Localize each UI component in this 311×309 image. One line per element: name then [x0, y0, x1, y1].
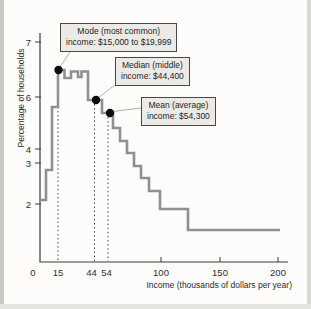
mode-callout-line1: Mode (most common) [66, 26, 171, 37]
x-tick-label-54: 54 [101, 267, 112, 278]
x-tick-label-150: 150 [212, 267, 228, 278]
mode-leader-line [60, 52, 70, 67]
mean-callout-line1: Mean (average) [147, 100, 210, 111]
x-tick-label-15: 15 [53, 267, 64, 278]
mode-callout-line2: income: $15,000 to $19,999 [66, 37, 171, 48]
x-tick-label-100: 100 [153, 267, 169, 278]
y-tick-label-2: 2 [26, 199, 31, 210]
mode-dot [54, 66, 62, 74]
x-tick-label-0: 0 [30, 267, 35, 278]
median-callout: Median (middle) income: $44,400 [115, 57, 190, 86]
y-axis-title: Percentage of households [16, 18, 28, 178]
median-dot [92, 96, 100, 104]
income-distribution-step-line [40, 70, 280, 230]
x-tick-label-44: 44 [86, 267, 97, 278]
mean-leader-line [113, 108, 141, 112]
figure: 764320154454100150200 Percentage of hous… [0, 0, 311, 309]
mean-callout: Mean (average) income: $54,300 [141, 97, 216, 126]
x-tick-label-200: 200 [270, 267, 286, 278]
median-leader-line [98, 84, 116, 98]
median-callout-line1: Median (middle) [121, 60, 184, 71]
x-axis-title: Income (thousands of dollars per year) [130, 280, 292, 290]
mean-dot [106, 109, 114, 117]
mean-callout-line2: income: $54,300 [147, 111, 210, 122]
mode-callout: Mode (most common) income: $15,000 to $1… [60, 23, 177, 52]
median-callout-line2: income: $44,400 [121, 71, 184, 82]
